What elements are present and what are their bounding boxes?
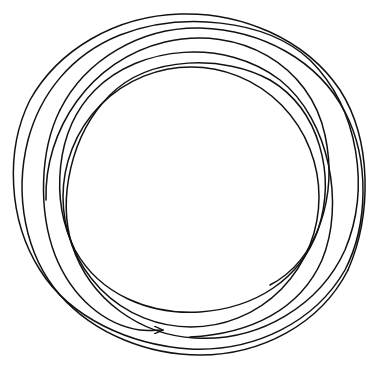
spiral-loop-drawing [0,0,378,365]
spiral-path [13,14,365,355]
inner-loop [63,67,319,327]
loop-3 [13,14,365,349]
spiral-diagram [0,0,378,365]
loop-5 [46,38,329,285]
loop-2 [22,22,358,355]
